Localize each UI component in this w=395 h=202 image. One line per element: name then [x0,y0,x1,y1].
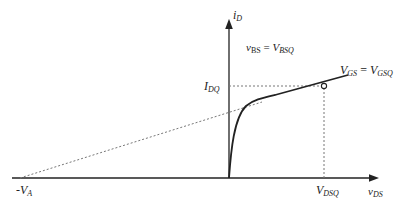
early-voltage-extrapolation-line [20,102,262,178]
drain-current-curve [229,75,348,178]
mosfet-characteristic-diagram: iD vBS = VBSQ VGS = VGSQ IDQ VDSQ vDS -V… [0,0,395,202]
vgs-condition-label: VGS = VGSQ [340,64,393,78]
diagram-graphics [0,0,395,202]
q-point-marker [321,83,326,88]
y-axis-label: iD [233,9,242,23]
vbs-condition-label: vBS = VBSQ [246,42,294,55]
minus-va-label: -VA [16,184,32,198]
idq-label: IDQ [204,80,220,94]
vdsq-label: VDSQ [316,184,339,198]
vds-axis-label: vDS [368,186,383,199]
